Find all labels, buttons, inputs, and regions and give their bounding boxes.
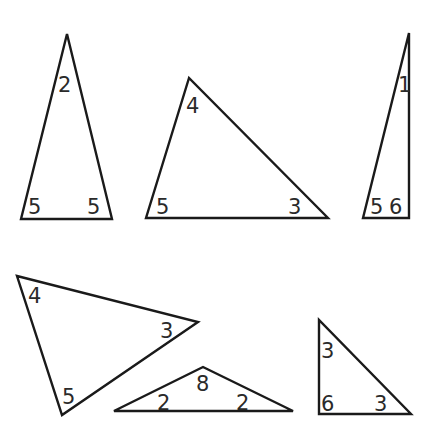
triangle-2-angle-right: 3 (288, 195, 301, 219)
triangle-1-outline (21, 34, 112, 219)
triangle-5-angle-right: 2 (236, 391, 249, 415)
triangle-3-angle-right: 6 (389, 195, 402, 219)
triangle-4-angle-right: 3 (160, 319, 173, 343)
triangle-3-outline (363, 33, 409, 218)
triangle-1-angle-left: 5 (28, 195, 41, 219)
triangle-6: 3 6 3 (319, 320, 411, 416)
triangle-2: 4 5 3 (146, 78, 328, 219)
triangle-3-angle-top: 1 (398, 73, 411, 97)
triangle-5-angle-top: 8 (196, 372, 209, 396)
triangle-4-angle-bottom: 5 (62, 385, 75, 409)
triangle-3: 1 5 6 (363, 33, 411, 219)
triangles-diagram: 2 5 5 4 5 3 1 5 6 4 3 5 2 8 2 3 6 3 (0, 0, 436, 436)
triangle-5: 2 8 2 (114, 367, 293, 415)
triangle-2-angle-left: 5 (156, 195, 169, 219)
triangle-4-outline (17, 276, 198, 415)
triangle-4-angle-top-left: 4 (28, 284, 41, 308)
triangle-6-angle-bottom-left: 6 (321, 392, 334, 416)
triangle-1: 2 5 5 (21, 34, 112, 219)
triangle-6-angle-top: 3 (321, 339, 334, 363)
triangle-5-angle-left: 2 (157, 391, 170, 415)
triangle-4: 4 3 5 (17, 276, 198, 415)
triangle-2-angle-top: 4 (186, 94, 199, 118)
triangle-1-angle-right: 5 (87, 195, 100, 219)
triangle-6-angle-bottom-right: 3 (374, 392, 387, 416)
triangle-3-angle-left: 5 (370, 195, 383, 219)
triangle-1-angle-top: 2 (58, 73, 71, 97)
